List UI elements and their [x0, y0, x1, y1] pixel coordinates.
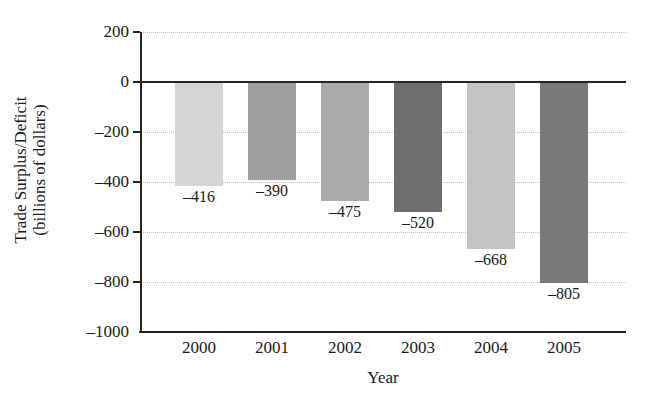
y-axis-tick-mark [133, 281, 140, 283]
bar-value-label: –390 [242, 182, 302, 200]
y-axis-title-line-2: (billions of dollars) [30, 96, 49, 243]
gridline [140, 32, 626, 33]
y-axis-tick-mark [133, 31, 140, 33]
x-axis-tick-label: 2001 [238, 338, 306, 358]
y-axis-title-text: Trade Surplus/Deficit (billions of dolla… [11, 96, 49, 243]
zero-axis-line [140, 81, 626, 83]
y-axis-tick-mark [133, 131, 140, 133]
y-axis-tick-label: –200 [95, 122, 129, 142]
y-axis-tick-label: 200 [104, 22, 130, 42]
bar [467, 82, 515, 249]
y-axis-title: Trade Surplus/Deficit (billions of dolla… [0, 0, 60, 340]
y-axis-title-line-1: Trade Surplus/Deficit [11, 96, 30, 243]
bar-value-label: –668 [461, 251, 521, 269]
bar-value-label: –805 [534, 285, 594, 303]
x-axis-tick-label: 2000 [165, 338, 233, 358]
x-axis-tick-label: 2005 [530, 338, 598, 358]
y-axis-tick-mark [133, 181, 140, 183]
plot-area: 2000–200–400–600–800–1000 –416–390–475–5… [140, 32, 626, 332]
y-axis-tick-mark [133, 81, 140, 83]
y-axis-tick-label: –600 [95, 222, 129, 242]
bar [321, 82, 369, 201]
x-axis-tick-label: 2004 [457, 338, 525, 358]
bar-value-label: –520 [388, 214, 448, 232]
y-axis-tick-label: –400 [95, 172, 129, 192]
y-axis-tick-label: 0 [121, 72, 130, 92]
chart-figure: Trade Surplus/Deficit (billions of dolla… [0, 0, 651, 395]
bar [248, 82, 296, 180]
bar-value-label: –475 [315, 203, 375, 221]
bar [540, 82, 588, 283]
bar [175, 82, 223, 186]
y-axis-tick-label: –1000 [87, 322, 130, 342]
y-axis-tick-mark [133, 231, 140, 233]
x-axis-tick-label: 2002 [311, 338, 379, 358]
bar-value-label: –416 [169, 188, 229, 206]
x-axis-title: Year [140, 368, 626, 388]
y-axis-tick-label: –800 [95, 272, 129, 292]
bar [394, 82, 442, 212]
x-axis-tick-label: 2003 [384, 338, 452, 358]
bottom-axis-line [139, 331, 626, 333]
y-axis-spine [140, 32, 142, 332]
